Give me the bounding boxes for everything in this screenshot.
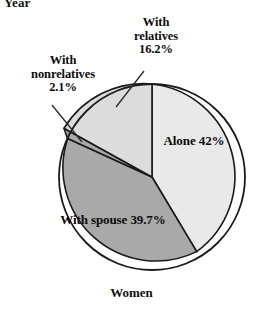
slice-label-with-nonrelatives-value: 2.1% [4, 81, 122, 95]
slice-label-alone: Alone 42% [158, 133, 230, 148]
slice-label-with-spouse-line1: With spouse [60, 212, 127, 227]
slice-label-with-relatives-line2: relatives [110, 30, 202, 44]
slice-label-with-spouse-value: 39.7% [130, 212, 165, 227]
figure-caption: Women [0, 285, 263, 300]
slice-label-with-spouse: With spouse 39.7% [58, 212, 168, 227]
slice-label-with-nonrelatives-line2: nonrelatives [4, 68, 122, 82]
pie-chart-figure: Year With relatives 16.2% With nonrelati… [0, 0, 263, 311]
slice-label-with-nonrelatives-line1: With [50, 53, 76, 67]
slice-label-with-nonrelatives: With nonrelatives 2.1% [4, 54, 122, 95]
slice-label-with-relatives-line1: With [143, 15, 169, 29]
slice-label-alone-line1: Alone [164, 133, 196, 148]
slice-label-with-relatives: With relatives 16.2% [110, 16, 202, 57]
slice-label-with-relatives-value: 16.2% [110, 43, 202, 57]
slice-label-alone-value: 42% [199, 133, 225, 148]
